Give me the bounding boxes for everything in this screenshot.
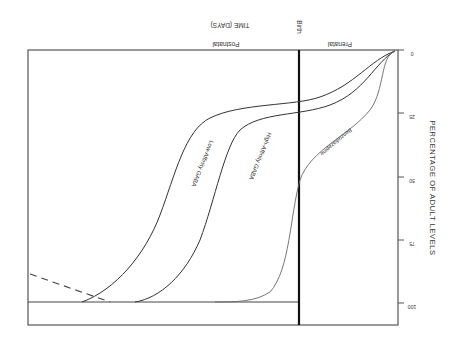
plot-frame bbox=[28, 50, 398, 325]
y-axis-title: PERCENTAGE OF ADULT LEVELS bbox=[428, 120, 437, 255]
tick-label-75: 75 bbox=[409, 241, 415, 247]
region-postnatal: Postnatal bbox=[212, 41, 240, 48]
development-chart: 0 25 50 75 100 PERCENTAGE OF ADULT LEVEL… bbox=[0, 0, 455, 346]
birth-label: Birth bbox=[296, 20, 303, 34]
tick-label-25: 25 bbox=[409, 114, 415, 120]
label-low-affinity-gaba: Low-Affinity GABA bbox=[191, 140, 215, 188]
curve-benzodiazepine bbox=[215, 51, 395, 302]
y-ticks bbox=[398, 50, 404, 303]
label-high-affinity-gaba: High-Affinity GABA bbox=[248, 132, 273, 181]
tick-label-100: 100 bbox=[408, 304, 417, 310]
curve-low-affinity-gaba bbox=[82, 51, 395, 302]
tick-label-50: 50 bbox=[409, 178, 415, 184]
label-benzodiazepine: Benzodiazepine bbox=[319, 127, 353, 157]
region-prenatal: Prenatal bbox=[327, 41, 352, 48]
tick-label-0: 0 bbox=[410, 51, 413, 57]
dashed-decline-line bbox=[30, 274, 110, 302]
x-axis-title: TIME (DAYS) bbox=[211, 21, 250, 29]
